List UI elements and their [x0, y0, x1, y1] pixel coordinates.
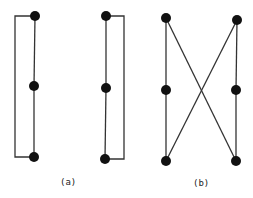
- node: [231, 156, 241, 166]
- node: [101, 11, 111, 21]
- node: [161, 156, 171, 166]
- node: [231, 85, 241, 95]
- graph-b: [166, 18, 237, 161]
- label-a: (a): [60, 177, 76, 187]
- node: [161, 85, 171, 95]
- graph-diagram: [0, 0, 253, 198]
- node: [232, 15, 242, 25]
- node: [100, 154, 110, 164]
- node: [29, 152, 39, 162]
- node: [101, 83, 111, 93]
- node: [30, 11, 40, 21]
- node: [161, 13, 171, 23]
- node: [29, 81, 39, 91]
- nodes: [29, 11, 242, 166]
- label-b: (b): [193, 178, 209, 188]
